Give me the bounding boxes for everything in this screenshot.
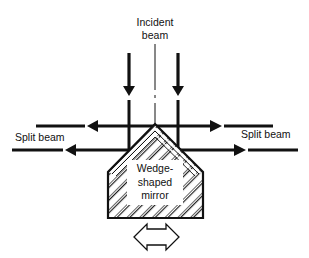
incident-beam-label-line1: Incident — [120, 16, 190, 29]
mirror-label-line1: Wedge- — [125, 162, 185, 176]
mirror-label: Wedge- shaped mirror — [125, 162, 185, 203]
split-beam-label-left: Split beam — [15, 131, 65, 144]
incident-beam-right — [172, 53, 184, 150]
split-beam-lower-right — [178, 144, 298, 156]
incident-beam-left — [123, 53, 135, 150]
mirror-label-line2: shaped — [125, 176, 185, 190]
diagram-canvas: Incident beam Split beam Split beam Wedg… — [0, 0, 309, 258]
incident-beam-label-line2: beam — [120, 29, 190, 42]
split-beam-label-right: Split beam — [241, 128, 291, 141]
double-headed-arrow-icon — [134, 224, 179, 250]
incident-beam-label: Incident beam — [120, 16, 190, 42]
mirror-label-line3: mirror — [125, 189, 185, 203]
split-beam-lower-left — [12, 144, 129, 156]
